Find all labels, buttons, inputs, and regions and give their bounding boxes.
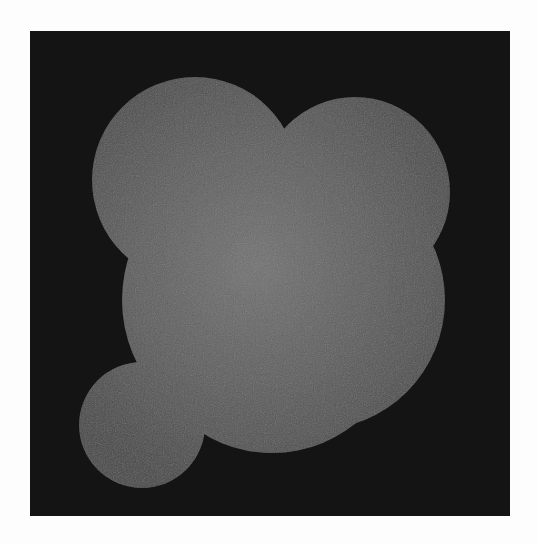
blob-figure — [0, 0, 537, 544]
image-canvas — [0, 0, 537, 544]
bottom-left-lobe — [79, 362, 205, 488]
